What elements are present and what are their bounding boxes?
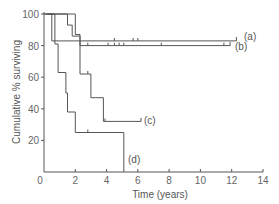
x-tick-2: 2 xyxy=(73,175,79,186)
x-tick-labels: 0 2 4 6 8 10 12 14 xyxy=(37,175,269,186)
survival-chart: 100 80 60 40 20 0 2 4 6 8 10 12 14 Time … xyxy=(0,0,279,204)
y-tick-40: 40 xyxy=(28,104,40,115)
x-tick-14: 14 xyxy=(257,175,269,186)
x-tick-12: 12 xyxy=(226,175,238,186)
series-a xyxy=(44,14,236,41)
y-tick-80: 80 xyxy=(28,41,40,52)
y-tick-60: 60 xyxy=(28,72,40,83)
series-label-c: (c) xyxy=(144,115,156,126)
x-tick-0: 0 xyxy=(37,175,43,186)
x-axis-title: Time (years) xyxy=(132,189,188,200)
y-axis-title: Cumulative % surviving xyxy=(11,40,22,144)
series-label-d: (d) xyxy=(128,154,140,165)
x-tick-8: 8 xyxy=(166,175,172,186)
chart-canvas: 100 80 60 40 20 0 2 4 6 8 10 12 14 Time … xyxy=(0,0,279,204)
x-tick-4: 4 xyxy=(104,175,110,186)
y-tick-100: 100 xyxy=(22,9,39,20)
series-d xyxy=(48,14,124,172)
y-tick-20: 20 xyxy=(28,135,40,146)
y-tick-labels: 100 80 60 40 20 xyxy=(22,9,39,146)
x-tick-10: 10 xyxy=(195,175,207,186)
x-tick-6: 6 xyxy=(135,175,141,186)
series-label-b: (b) xyxy=(235,41,247,52)
